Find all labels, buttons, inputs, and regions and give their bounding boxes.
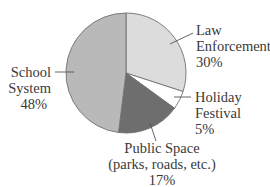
label-public-line2: (parks, roads, etc.) [108, 156, 216, 173]
pie-slices [66, 13, 186, 133]
label-school-pct: 48% [20, 96, 47, 112]
label-holiday-line1: Holiday [195, 89, 242, 105]
label-law-line1: Law [196, 22, 222, 38]
label-public-pct: 17% [149, 172, 176, 187]
label-law-line2: Enforcement [196, 38, 270, 54]
pie-chart: Law Enforcement 30% Holiday Festival 5% … [0, 0, 270, 187]
label-public-space: Public Space (parks, roads, etc.) 17% [108, 140, 216, 187]
label-school-line2: System [8, 80, 51, 96]
label-school-system: School System 48% [8, 64, 51, 112]
label-law-pct: 30% [196, 54, 223, 70]
label-school-line1: School [11, 64, 51, 80]
label-holiday-pct: 5% [195, 121, 214, 137]
label-law-enforcement: Law Enforcement 30% [196, 22, 270, 70]
label-holiday-line2: Festival [195, 105, 241, 121]
label-holiday-festival: Holiday Festival 5% [195, 89, 242, 137]
pie-slice-school-system [66, 13, 126, 133]
label-public-line1: Public Space [124, 140, 199, 156]
